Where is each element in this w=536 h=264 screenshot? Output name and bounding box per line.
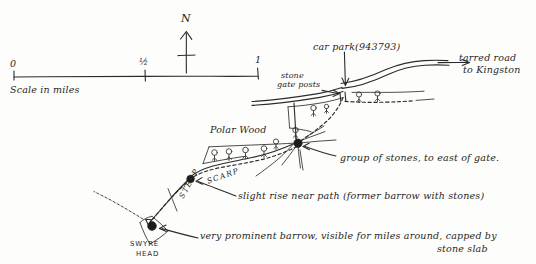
minor-road-graphic [252, 87, 343, 105]
tarred-road-south-edge [342, 65, 449, 89]
group-of-stones-label: group of stones, to east of gate. [340, 152, 499, 163]
track-spur-south-stub [298, 146, 300, 168]
tree-icon [311, 105, 316, 116]
car-park-label: car park(943793) [313, 41, 400, 52]
dashed-track-near-carpark [345, 101, 414, 103]
footpath-upper-segment [300, 98, 343, 142]
scale-label-zero: 0 [10, 58, 16, 69]
tree-icon [226, 149, 232, 161]
minor-road-north-edge [252, 87, 342, 101]
tarred-road-label-line1: tarred road [459, 52, 516, 63]
field-boundary-west-side [288, 107, 290, 128]
scale-caption: Scale in miles [10, 84, 80, 95]
north-label: N [181, 13, 191, 26]
scale-bar-axis [14, 76, 258, 77]
boundary-tick-c [416, 99, 434, 100]
footpath-polar-wood-segment [194, 147, 297, 177]
car-park-leader-line [344, 52, 345, 84]
scale-tick-one [258, 68, 259, 79]
roadside-tree-symbols [293, 91, 380, 139]
minor-road-south-edge [252, 91, 343, 105]
north-arrow-crossbar [178, 55, 195, 56]
scale-bar-graphic [14, 68, 258, 81]
tarred-road-label-line2: to Kingston [463, 64, 521, 75]
swyre-head-label-line2: HEAD [136, 250, 159, 258]
tarred-road-graphic [341, 60, 470, 89]
track-spur-east-stub [300, 140, 336, 143]
swyre-head-leader-line [162, 229, 198, 238]
sketch-map-canvas: 0 ½ 1 Scale in miles N car park(943793) … [0, 0, 536, 264]
tree-icon [243, 147, 249, 159]
slight-rise-label: slight rise near path (former barrow wit… [238, 190, 484, 201]
polar-wood-west-edge [203, 147, 209, 164]
tree-icon [212, 150, 218, 162]
field-boundary-graphic [288, 91, 424, 131]
dashed-path-to-northwest [94, 192, 143, 219]
prominent-barrow-label-line2: stone slab [437, 243, 488, 254]
group-of-stones-dot [294, 139, 302, 147]
tree-icon [261, 146, 267, 158]
dashed-path-northwest-graphic [94, 192, 143, 219]
field-boundary-east-of-carpark [352, 91, 424, 92]
field-boundary-upper [288, 98, 343, 107]
swyre-head-label-line1: SWYRE [130, 240, 159, 248]
stone-gate-posts-label-line2: gate posts [277, 80, 320, 89]
slight-rise-leader-line [198, 182, 236, 196]
dashed-track-east-graphic [345, 101, 414, 103]
scale-label-one: 1 [255, 54, 261, 65]
tree-icon [356, 92, 361, 103]
scarp-edge-upper [190, 144, 293, 177]
north-arrow-graphic [178, 32, 195, 74]
car-park-pointer-graphic [342, 52, 349, 86]
group-of-stones-leader-line [305, 146, 336, 156]
map-drawing-layer [0, 0, 536, 264]
scale-label-half: ½ [139, 56, 148, 67]
polar-wood-boundary-graphic [203, 143, 293, 163]
gate-post-pair [340, 92, 346, 102]
tree-icon [324, 104, 328, 113]
polar-wood-north-edge [209, 143, 293, 147]
swyre-head-barrow-dot [148, 222, 157, 231]
prominent-barrow-label-line1: very prominent barrow, visible for miles… [200, 230, 497, 241]
polar-wood-label: Polar Wood [210, 124, 267, 135]
